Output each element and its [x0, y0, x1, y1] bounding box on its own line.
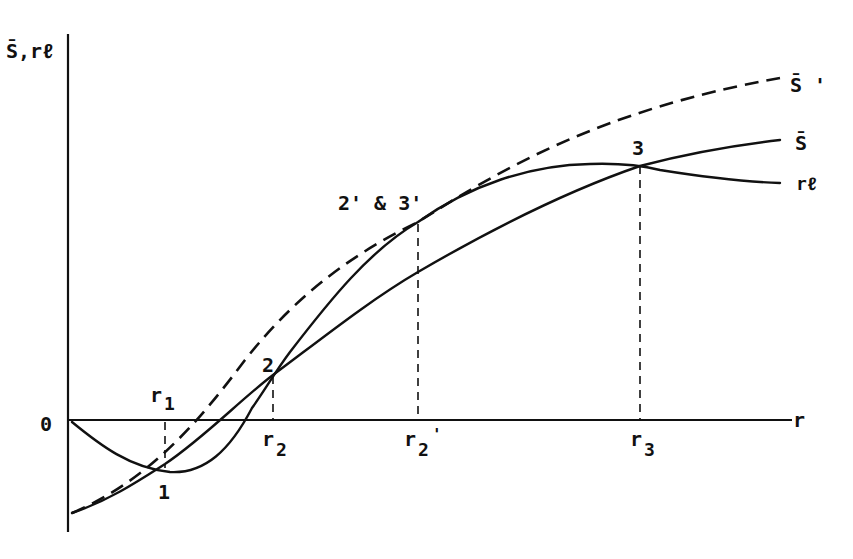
point-label-3: 3 — [632, 136, 644, 160]
series-label-s-bar-prime: S̄ ' — [790, 73, 826, 97]
series-label-s-bar: S̄ — [795, 131, 807, 155]
tick-r2: r 2 — [262, 427, 287, 460]
svg-text:r: r — [404, 427, 416, 451]
point-label-2p-3p: 2' & 3' — [338, 191, 422, 215]
y-axis-label: S̄,rℓ — [6, 39, 54, 63]
tick-r3: r 3 — [630, 427, 655, 460]
svg-text:': ' — [432, 425, 442, 444]
svg-text:r: r — [262, 427, 274, 451]
svg-text:1: 1 — [164, 393, 175, 414]
curve-r-ell — [72, 164, 780, 472]
point-label-2: 2 — [262, 353, 274, 377]
tick-r2-prime: r 2 ' — [404, 425, 442, 460]
svg-text:3: 3 — [644, 439, 655, 460]
diagram-canvas: S̄,rℓ r 0 S̄ ' S̄ rℓ 1 2 2' & 3' 3 r 1 r… — [0, 0, 853, 559]
origin-label: 0 — [40, 412, 52, 436]
series-label-r-ell: rℓ — [796, 173, 818, 194]
svg-text:2: 2 — [418, 439, 429, 460]
point-label-1: 1 — [158, 480, 170, 504]
svg-text:2: 2 — [276, 439, 287, 460]
x-axis-label: r — [793, 408, 805, 432]
svg-text:r: r — [150, 383, 162, 407]
svg-text:r: r — [630, 427, 642, 451]
tick-r1: r 1 — [150, 383, 175, 414]
